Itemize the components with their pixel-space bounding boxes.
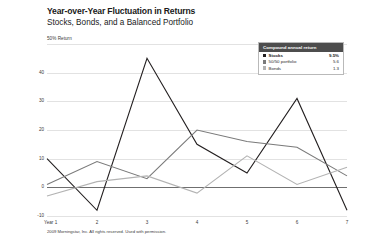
- legend-series-label: Stocks: [269, 53, 329, 58]
- legend-color-swatch: [263, 54, 266, 57]
- chart-page: Year-over-Year Fluctuation in Returns St…: [0, 0, 379, 245]
- legend-series-value: 1.3: [333, 66, 339, 71]
- legend-row: Stocks9.5%: [259, 52, 343, 58]
- y-axis-title: 50% Return: [47, 36, 72, 41]
- legend-color-swatch: [263, 66, 266, 69]
- legend-series-value: 5.6: [333, 59, 339, 64]
- x-axis-tick-label: 6: [296, 220, 299, 225]
- legend-series-label: Bonds: [269, 66, 333, 71]
- legend-row: 50/50 portfolio5.6: [259, 58, 343, 64]
- legend-row: Bonds1.3: [259, 64, 343, 70]
- x-axis-tick-label: 4: [196, 220, 199, 225]
- y-axis-tick-label: 20: [39, 127, 44, 132]
- chart-header: Year-over-Year Fluctuation in Returns St…: [47, 6, 347, 28]
- y-axis-tick-label: 10: [39, 156, 44, 161]
- legend-color-swatch: [263, 60, 266, 63]
- x-axis-tick-label: 5: [246, 220, 249, 225]
- y-axis-tick-label: 40: [39, 70, 44, 75]
- page-title: Year-over-Year Fluctuation in Returns: [47, 6, 347, 17]
- x-axis-tick-label: Year 1: [44, 220, 57, 225]
- gridline: [47, 216, 347, 217]
- y-axis-tick-label: 30: [39, 98, 44, 103]
- legend-box: Compound annual return Stocks9.5%50/50 p…: [258, 42, 344, 75]
- legend-heading: Compound annual return: [259, 43, 343, 52]
- page-subtitle: Stocks, Bonds, and a Balanced Portfolio: [47, 17, 347, 28]
- copyright-note: 2009 Morningstar, Inc. All rights reserv…: [47, 229, 166, 234]
- series-line: [47, 58, 347, 210]
- x-axis-tick-label: 3: [146, 220, 149, 225]
- y-axis-tick-label: 0: [41, 184, 44, 189]
- series-line: [47, 130, 347, 184]
- y-axis-tick-label: -10: [37, 213, 44, 218]
- legend-series-label: 50/50 portfolio: [269, 59, 333, 64]
- x-axis-tick-label: 7: [346, 220, 349, 225]
- legend-series-value: 9.5%: [329, 53, 339, 58]
- x-axis-tick-label: 2: [96, 220, 99, 225]
- series-line: [47, 156, 347, 196]
- legend-rows: Stocks9.5%50/50 portfolio5.6Bonds1.3: [259, 52, 343, 71]
